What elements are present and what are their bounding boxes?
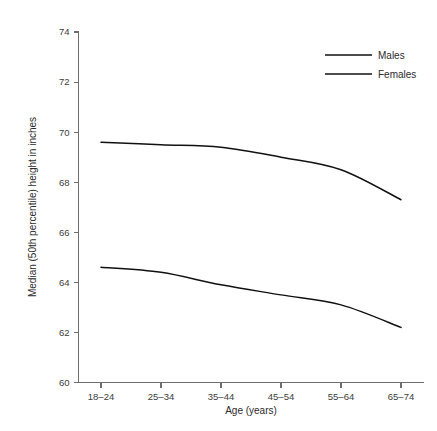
y-tick-label: 72 (59, 76, 70, 87)
y-tick-label: 64 (59, 277, 70, 288)
series-line-females (101, 267, 401, 327)
chart-figure: 6062646668707274 18–2425–3435–4445–5455–… (0, 0, 437, 431)
series-line-males (101, 142, 401, 200)
y-axis-title: Median (50th percentile) height in inche… (27, 117, 38, 297)
y-tick-label: 60 (59, 377, 70, 388)
y-tick-label: 62 (59, 327, 70, 338)
y-tick-label: 68 (59, 177, 70, 188)
chart-legend: MalesFemales (325, 50, 416, 80)
x-axis-ticks: 18–2425–3435–4445–5455–6465–74 (88, 383, 414, 402)
x-tick-label: 45–54 (268, 391, 294, 402)
y-tick-label: 66 (59, 227, 70, 238)
y-axis-ticks: 6062646668707274 (59, 26, 79, 388)
x-tick-label: 55–64 (328, 391, 354, 402)
line-chart-canvas: 6062646668707274 18–2425–3435–4445–5455–… (0, 0, 437, 431)
x-tick-label: 65–74 (388, 391, 414, 402)
x-tick-label: 35–44 (208, 391, 234, 402)
y-tick-label: 70 (59, 127, 70, 138)
data-series-group (101, 142, 401, 327)
legend-label-males: Males (378, 50, 405, 61)
x-tick-label: 25–34 (148, 391, 174, 402)
axis-lines (79, 32, 425, 383)
x-tick-label: 18–24 (88, 391, 114, 402)
x-axis-title: Age (years) (225, 405, 277, 416)
legend-label-females: Females (378, 69, 416, 80)
y-tick-label: 74 (59, 26, 70, 37)
